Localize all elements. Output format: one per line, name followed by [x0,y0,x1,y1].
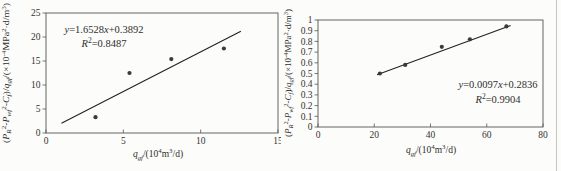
x-axis-label: qgf/(104m3/d) [133,147,183,160]
y-tick-label: 0.7 [301,47,313,57]
r-squared-label: R2=0.8487 [81,36,127,49]
right-chart: 02040608000.10.20.30.40.50.60.70.80.91y=… [281,0,561,171]
data-point [468,37,472,41]
x-tick-label: 60 [482,130,492,140]
figure-canvas: 0510150510152025y=1.6528x+0.3892R2=0.848… [0,0,561,171]
data-point [403,63,407,67]
y-tick-label: 0 [36,128,41,138]
x-tick-label: 80 [538,130,548,140]
x-tick-label: 0 [316,130,321,140]
data-point [504,24,508,28]
left-chart: 0510150510152025y=1.6528x+0.3892R2=0.848… [0,0,281,171]
y-tick-label: 0.1 [301,112,313,122]
y-tick-label: 0.2 [301,101,313,111]
y-tick-label: 0.6 [301,58,313,68]
y-axis-label: (PR2-Pwf2-Cf)/qgf/(×10-4MPa2·d/m3) [1,3,12,143]
data-point [378,71,382,75]
x-tick-label: 40 [426,130,436,140]
data-point [169,57,173,61]
data-point [222,46,226,50]
y-tick-label: 0.9 [301,26,313,36]
x-tick-label: 15 [273,136,281,146]
r-squared-label: R2=0.9904 [475,92,522,105]
y-tick-label: 0.4 [301,79,313,89]
y-axis-label: (PR2-Pwf2-Cf)/qgf/(×10-4MPa2·d/m3) [283,9,294,137]
plot-area [318,20,543,127]
y-tick-label: 25 [31,8,41,18]
data-point [93,115,97,119]
x-tick-label: 10 [196,136,206,146]
x-tick-label: 0 [44,136,49,146]
y-tick-label: 0 [308,122,313,132]
data-point [440,45,444,49]
y-tick-label: 15 [31,56,41,66]
y-tick-label: 0.8 [301,37,313,47]
y-tick-label: 5 [36,104,41,114]
x-axis-label: qgf/(104m3/d) [406,143,456,156]
equation-label: y=1.6528x+0.3892 [64,24,144,35]
data-point [127,71,131,75]
equation-label: y=0.0097x+0.2836 [458,79,538,90]
trend-line [377,26,511,75]
y-tick-label: 0.5 [301,69,313,79]
y-tick-label: 10 [31,80,41,90]
y-tick-label: 20 [31,32,41,42]
y-tick-label: 0.3 [301,90,313,100]
x-tick-label: 5 [121,136,126,146]
y-tick-label: 1 [308,15,313,25]
scan-edge-artifact [556,0,557,171]
x-tick-label: 20 [370,130,380,140]
